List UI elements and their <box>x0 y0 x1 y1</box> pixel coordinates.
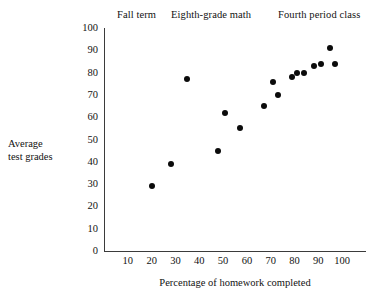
x-tick-label: 80 <box>289 256 300 267</box>
chart-header: Fall term Eighth-grade math Fourth perio… <box>104 8 372 26</box>
header-subject-label: Eighth-grade math <box>171 9 251 20</box>
x-tick-label: 30 <box>170 256 181 267</box>
y-tick-label: 10 <box>72 223 98 234</box>
y-tick-label: 100 <box>72 23 98 34</box>
data-point <box>237 125 243 131</box>
x-axis-label: Percentage of homework completed <box>104 277 366 288</box>
y-tick-label: 0 <box>72 246 98 257</box>
data-point <box>168 161 174 167</box>
y-tick-label: 50 <box>72 134 98 145</box>
x-tick-label: 60 <box>242 256 253 267</box>
y-tick-label: 40 <box>72 157 98 168</box>
data-point <box>327 45 333 51</box>
x-tick-label: 100 <box>334 256 350 267</box>
data-point <box>149 183 155 189</box>
y-axis-line <box>104 28 105 252</box>
x-tick-label: 10 <box>123 256 134 267</box>
y-tick-label: 70 <box>72 90 98 101</box>
y-tick-label: 90 <box>72 45 98 56</box>
x-tick-label: 70 <box>265 256 276 267</box>
data-point <box>318 61 324 67</box>
header-class-label: Fourth period class <box>278 9 360 20</box>
data-point <box>275 92 281 98</box>
data-point <box>294 70 300 76</box>
x-tick-label: 20 <box>146 256 157 267</box>
data-point <box>222 110 228 116</box>
header-term-label: Fall term <box>117 9 156 20</box>
y-tick-label: 20 <box>72 201 98 212</box>
x-tick-label: 90 <box>313 256 324 267</box>
data-point <box>270 79 276 85</box>
data-point <box>332 61 338 67</box>
plot-area: 0102030405060708090100 10203040506070809… <box>104 28 366 252</box>
x-tick-label: 40 <box>194 256 205 267</box>
data-point <box>311 63 317 69</box>
x-tick-label: 50 <box>218 256 229 267</box>
y-tick-label: 60 <box>72 112 98 123</box>
x-axis-line <box>104 251 366 252</box>
y-tick-label: 80 <box>72 67 98 78</box>
data-point <box>184 76 190 82</box>
data-point <box>261 103 267 109</box>
data-point <box>301 70 307 76</box>
y-tick-label: 30 <box>72 179 98 190</box>
scatter-plot-figure: Fall term Eighth-grade math Fourth perio… <box>0 0 376 302</box>
data-point <box>215 148 221 154</box>
